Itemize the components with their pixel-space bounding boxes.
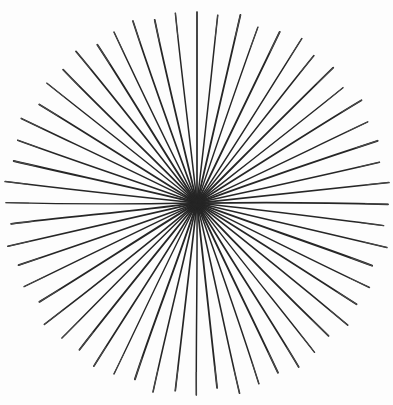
- figure-root: [0, 0, 393, 405]
- radial-starburst-figure: [0, 0, 393, 405]
